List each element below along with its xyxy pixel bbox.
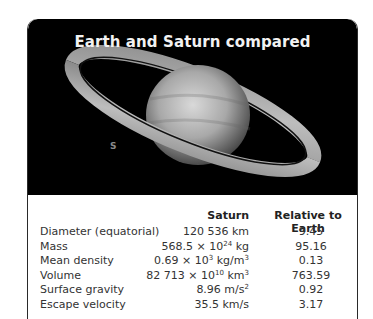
row-saturn-value: 568.5 × 1024 kg xyxy=(162,240,249,253)
table-header-row: Saturn Relative to Earth xyxy=(28,209,357,223)
page-title: Earth and Saturn compared xyxy=(28,33,357,51)
table-row: Diameter (equatorial) 120 536 km 9.45 xyxy=(28,225,357,239)
svg-text:S: S xyxy=(110,141,116,151)
row-relative-value: 3.17 xyxy=(276,298,346,311)
row-saturn-value: 35.5 km/s xyxy=(194,298,249,311)
table-row: Volume 82 713 × 1010 km3 763.59 xyxy=(28,269,357,283)
row-saturn-value: 0.69 × 103 kg/m3 xyxy=(154,254,249,267)
row-relative-value: 0.92 xyxy=(276,283,346,296)
row-relative-value: 0.13 xyxy=(276,254,346,267)
table-row: Escape velocity 35.5 km/s 3.17 xyxy=(28,298,357,312)
row-saturn-value: 8.96 m/s2 xyxy=(196,283,249,296)
row-label: Mean density xyxy=(40,254,114,267)
row-label: Mass xyxy=(40,240,68,253)
row-relative-value: 763.59 xyxy=(276,269,346,282)
table-row: Surface gravity 8.96 m/s2 0.92 xyxy=(28,283,357,297)
row-relative-value: 95.16 xyxy=(276,240,346,253)
row-label: Diameter (equatorial) xyxy=(40,225,159,238)
header-panel: S Earth and Saturn compared xyxy=(28,19,357,195)
table-row: Mass 568.5 × 1024 kg 95.16 xyxy=(28,240,357,254)
comparison-card: S Earth and Saturn compared Saturn Relat… xyxy=(27,19,358,319)
row-label: Volume xyxy=(40,269,81,282)
header-saturn: Saturn xyxy=(207,209,249,222)
row-relative-value: 9.45 xyxy=(276,225,346,238)
row-label: Surface gravity xyxy=(40,283,124,296)
row-saturn-value: 82 713 × 1010 km3 xyxy=(146,269,249,282)
table-row: Mean density 0.69 × 103 kg/m3 0.13 xyxy=(28,254,357,268)
row-label: Escape velocity xyxy=(40,298,126,311)
row-saturn-value: 120 536 km xyxy=(183,225,249,238)
